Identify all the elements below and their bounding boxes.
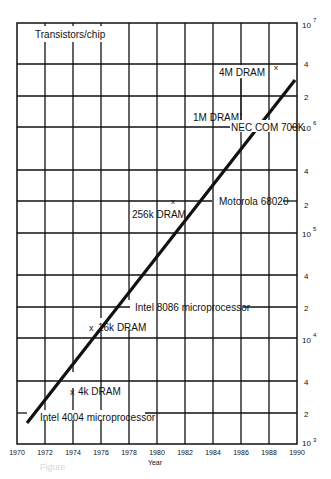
svg-text:4: 4: [313, 332, 317, 338]
svg-text:4: 4: [304, 378, 309, 387]
svg-text:1978: 1978: [121, 449, 137, 456]
svg-text:3: 3: [313, 437, 317, 443]
annotation-intel-4004: Intel 4004 microprocessor: [40, 412, 156, 423]
annotation-16k-dram: 16k DRAM: [98, 322, 146, 333]
svg-text:1976: 1976: [93, 449, 109, 456]
marker-256k-dram: x: [171, 197, 175, 206]
annotation-256k-dram: 256k DRAM: [132, 209, 186, 220]
svg-text:1984: 1984: [205, 449, 221, 456]
figure-caption: Figure: [40, 462, 66, 472]
svg-text:1980: 1980: [149, 449, 165, 456]
y-axis-title: Transistors/chip: [35, 29, 106, 40]
svg-text:1986: 1986: [233, 449, 249, 456]
annotation-4m-dram: 4M DRAM: [219, 67, 265, 78]
svg-text:2: 2: [304, 410, 309, 419]
svg-text:10: 10: [302, 439, 311, 448]
svg-text:6: 6: [313, 120, 317, 126]
svg-text:5: 5: [313, 226, 317, 232]
annotation-4k-dram: 4k DRAM: [78, 386, 121, 397]
svg-text:4: 4: [304, 167, 309, 176]
y-axis-labels: 107 4 2 106 4 2 105 4 2 104 4 2 103: [302, 17, 317, 448]
svg-text:1970: 1970: [9, 449, 25, 456]
annotation-motorola-68020: Motorola 68020: [219, 196, 289, 207]
svg-text:1990: 1990: [289, 449, 305, 456]
svg-text:2: 2: [304, 304, 309, 313]
svg-text:7: 7: [313, 17, 317, 23]
svg-text:4: 4: [304, 272, 309, 281]
svg-text:2: 2: [304, 93, 309, 102]
marker-16k-dram: x: [89, 323, 94, 333]
annotation-nec-com-700k: NEC COM 700K: [231, 122, 305, 133]
transistor-chart: Transistors/chip 4M DRAM x 1M DRAM NEC C…: [0, 0, 331, 479]
marker-4k-dram: x: [70, 387, 75, 397]
annotation-intel-8086: Intel 8086 microprocessor: [135, 302, 251, 313]
x-axis-labels: 1970 1972 1974 1976 1978 1980 1982 1984 …: [9, 449, 305, 456]
svg-text:10: 10: [302, 21, 311, 30]
svg-text:10: 10: [302, 124, 311, 133]
svg-text:10: 10: [302, 336, 311, 345]
svg-text:1972: 1972: [37, 449, 53, 456]
svg-text:1988: 1988: [261, 449, 277, 456]
svg-text:10: 10: [302, 230, 311, 239]
svg-text:4: 4: [304, 60, 309, 69]
x-axis-title: Year: [148, 459, 163, 466]
data-markers: [240, 79, 242, 127]
svg-text:1982: 1982: [177, 449, 193, 456]
marker-4m-dram: x: [274, 63, 278, 72]
svg-text:1974: 1974: [65, 449, 81, 456]
svg-text:2: 2: [304, 201, 309, 210]
